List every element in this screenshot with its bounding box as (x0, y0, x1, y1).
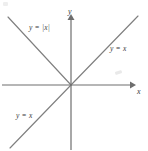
curve-line-right-ray (71, 16, 138, 85)
curve-label-absolute-value: y = |x| (29, 24, 50, 32)
x-axis-label: x (137, 88, 141, 96)
curve-label-line-left: y = x (16, 112, 32, 120)
graph-figure: y x y = |x| y = x y = x (0, 0, 148, 151)
y-axis-label: y (68, 8, 72, 16)
curve-label-line-right: y = x (110, 45, 126, 53)
scan-artifact-corner (3, 2, 8, 6)
coordinate-plane (0, 0, 148, 151)
